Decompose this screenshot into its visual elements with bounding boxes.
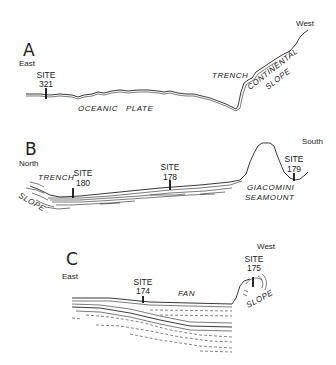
feature-seamount: SEAMOUNT (245, 193, 295, 202)
site-178-number: 178 (163, 172, 177, 182)
panel-c-letter: C (66, 249, 78, 269)
feature-giacomini: GIACOMINI (247, 183, 294, 192)
panel-a: A East West SITE 321 OCEANIC PLATE TRENC… (19, 19, 315, 113)
feature-trench: TRENCH (212, 71, 248, 80)
site-180-label: SITE (74, 168, 93, 178)
panel-b-left-direction: North (19, 159, 39, 168)
feature-oceanic: OCEANIC (78, 104, 118, 113)
panel-c-left-direction: East (62, 272, 79, 281)
feature-trench-b: TRENCH (38, 173, 74, 182)
site-321-number: 321 (39, 79, 53, 89)
panel-c: C East West SITE 174 S (62, 242, 276, 352)
panel-c-sediment-layers (72, 279, 250, 352)
panel-a-letter: A (23, 40, 35, 60)
site-180-number: 180 (76, 178, 90, 188)
panel-c-right-direction: West (257, 242, 276, 251)
feature-plate: PLATE (126, 104, 153, 113)
panel-a-right-direction: West (296, 19, 315, 28)
panel-b-right-direction: South (302, 137, 323, 146)
panel-b-letter: B (25, 139, 37, 159)
site-174-number: 174 (136, 286, 150, 296)
feature-fan: FAN (178, 289, 195, 298)
site-178-label: SITE (161, 162, 180, 172)
feature-slope-b: SLOPE (17, 191, 47, 213)
site-179-number: 179 (287, 164, 301, 174)
cross-section-diagram: A East West SITE 321 OCEANIC PLATE TRENC… (0, 0, 336, 365)
panel-b: B North South SITE 180 SITE 178 SITE 1 (17, 137, 323, 213)
site-179-label: SITE (285, 154, 304, 164)
feature-slope-c: SLOPE (245, 288, 275, 310)
site-175-number: 175 (247, 263, 261, 273)
panel-a-left-direction: East (19, 59, 36, 68)
